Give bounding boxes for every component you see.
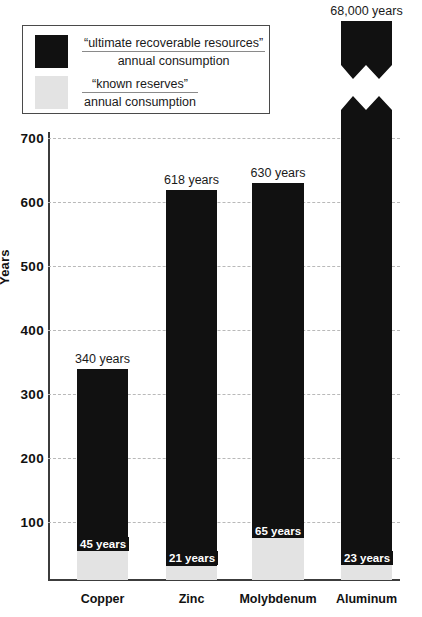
legend-fraction-ultimate-recoverable: “ultimate recoverable resources” annual …	[82, 36, 265, 68]
y-tick-label: 300	[21, 387, 44, 402]
legend-numerator: “known reserves”	[90, 77, 190, 91]
bar-aluminum-ultimate	[341, 96, 392, 580]
y-tick-label: 400	[21, 323, 44, 338]
bar-chart: “ultimate recoverable resources” annual …	[0, 0, 422, 617]
bar-value-label-copper: 340 years	[75, 352, 130, 366]
x-tick-label-molybdenum: Molybdenum	[239, 592, 316, 606]
fraction-rule	[82, 51, 265, 52]
reserve-value-label-molybdenum: 65 years	[252, 524, 304, 538]
y-tick-label: 100	[21, 515, 44, 530]
bar-value-label-aluminum: 68,000 years	[330, 4, 402, 18]
legend-denominator: annual consumption	[82, 95, 198, 109]
legend-item-known-reserves: “known reserves” annual consumption	[35, 76, 198, 109]
bar-copper-reserves	[77, 551, 128, 580]
reserve-value-label-zinc: 21 years	[166, 551, 218, 565]
legend-numerator: “ultimate recoverable resources”	[82, 36, 265, 50]
chart-legend: “ultimate recoverable resources” annual …	[22, 25, 270, 114]
y-axis-title: Years	[0, 249, 12, 285]
bar-zinc-reserves	[166, 566, 217, 580]
y-axis-line	[48, 132, 50, 581]
bar-zinc-ultimate	[166, 190, 217, 580]
legend-swatch-ultimate-recoverable	[35, 35, 68, 68]
legend-swatch-known-reserves	[35, 76, 68, 109]
legend-item-ultimate-recoverable: “ultimate recoverable resources” annual …	[35, 35, 265, 68]
reserve-value-label-copper: 45 years	[77, 537, 129, 551]
fraction-rule	[82, 92, 198, 93]
legend-denominator: annual consumption	[116, 54, 232, 68]
y-tick-label: 700	[21, 131, 44, 146]
bar-aluminum-upper-stub	[341, 21, 392, 81]
bar-aluminum-reserves	[341, 565, 392, 580]
y-tick-label: 600	[21, 195, 44, 210]
reserve-value-label-aluminum: 23 years	[341, 551, 393, 565]
bar-molybdenum-reserves	[252, 538, 304, 580]
bar-value-label-molybdenum: 630 years	[251, 166, 306, 180]
y-tick-label: 500	[21, 259, 44, 274]
legend-fraction-known-reserves: “known reserves” annual consumption	[82, 77, 198, 109]
x-tick-label-zinc: Zinc	[179, 592, 205, 606]
bar-value-label-zinc: 618 years	[164, 173, 219, 187]
x-tick-label-copper: Copper	[81, 592, 125, 606]
bar-molybdenum-ultimate	[252, 183, 304, 580]
x-tick-label-aluminum: Aluminum	[336, 592, 397, 606]
y-tick-label: 200	[21, 451, 44, 466]
